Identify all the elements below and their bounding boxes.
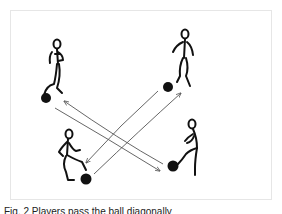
arrow-bottom-left-to-top-right [94, 93, 181, 174]
ball-top-right [163, 82, 173, 92]
ball-bottom-right [168, 161, 179, 172]
figure-caption: Fig. 2 Players pass the ball diagonally [4, 206, 172, 214]
pass-arrows [55, 91, 181, 174]
passing-drill-diagram [0, 0, 282, 214]
player-bottom-left [59, 130, 86, 181]
player-top-left [44, 40, 63, 96]
ball-bottom-left [81, 174, 92, 185]
player-top-right [173, 30, 193, 87]
ball-top-left [41, 93, 51, 103]
player-bottom-right [178, 120, 197, 176]
arrow-top-right-to-bottom-left [86, 91, 158, 163]
arrow-bottom-right-to-top-left [64, 101, 163, 164]
